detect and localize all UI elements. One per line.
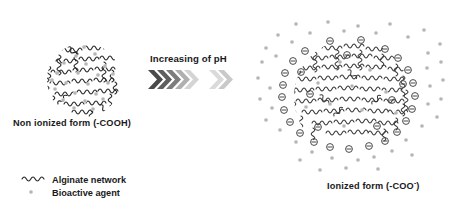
negative-charge-symbols [279,37,419,153]
legend-wavy-line-icon [22,177,44,181]
left-network-group [45,39,120,122]
diagram-canvas: Non ionized form (-COOH) Increasing of p… [0,0,452,209]
legend-dot-icon [29,190,33,194]
ph-arrow-chevrons [148,70,233,89]
right-label-suffix: ) [416,181,419,191]
ph-arrow-label: Increasing of pH [150,54,227,64]
chevron-group-secondary [209,70,233,89]
right-label-prefix: Ionized form (-COO [327,181,414,191]
right-network-group [256,20,445,172]
left-structure-label: Non ionized form (-COOH) [13,119,131,128]
legend-symbols [22,177,44,194]
legend-item-bioactive-agent: Bioactive agent [52,189,120,198]
chevron-group-primary [148,70,199,89]
left-alginate-chains [45,39,120,122]
right-structure-label: Ionized form (-COO-) [327,182,420,191]
legend-item-alginate-network: Alginate network [52,176,126,185]
